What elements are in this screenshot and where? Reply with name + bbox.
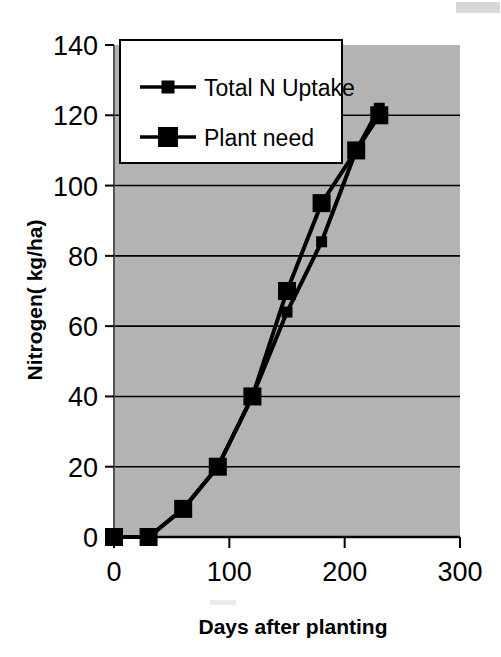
series-marker xyxy=(313,194,331,212)
series-marker xyxy=(209,458,227,476)
scan-artifact xyxy=(456,2,500,13)
scan-artifact xyxy=(210,600,236,605)
chart-legend: Total N UptakePlant need xyxy=(120,40,355,163)
y-axis-title: Nitrogen( kg/ha) xyxy=(23,220,46,381)
legend-label: Plant need xyxy=(204,125,314,151)
x-tick-label: 200 xyxy=(322,557,367,587)
x-tick-label: 0 xyxy=(106,557,121,587)
series-marker xyxy=(370,106,388,124)
y-tick-label: 20 xyxy=(68,453,98,483)
x-tick-label: 100 xyxy=(207,557,252,587)
x-axis-ticks: 0100200300 xyxy=(106,537,482,587)
y-tick-label: 120 xyxy=(53,101,98,131)
y-tick-label: 100 xyxy=(53,172,98,202)
y-tick-label: 40 xyxy=(68,382,98,412)
series-marker xyxy=(316,236,327,247)
nitrogen-uptake-line-chart: 020406080100120140 0100200300 Total N Up… xyxy=(0,0,501,657)
y-tick-label: 80 xyxy=(68,242,98,272)
y-tick-label: 60 xyxy=(68,312,98,342)
y-axis-ticks: 020406080100120140 xyxy=(53,31,114,553)
y-tick-label: 0 xyxy=(83,523,98,553)
series-marker xyxy=(174,500,192,518)
series-marker xyxy=(347,141,365,159)
legend-marker-sample xyxy=(162,81,175,94)
legend-marker-sample xyxy=(158,127,178,147)
chart-page: 020406080100120140 0100200300 Total N Up… xyxy=(0,0,501,657)
series-marker xyxy=(278,282,296,300)
legend-label: Total N Uptake xyxy=(204,75,355,101)
series-marker xyxy=(243,387,261,405)
x-tick-label: 300 xyxy=(437,557,482,587)
y-tick-label: 140 xyxy=(53,31,98,61)
x-axis-title: Days after planting xyxy=(198,615,387,638)
series-marker xyxy=(105,528,123,546)
series-marker xyxy=(140,528,158,546)
